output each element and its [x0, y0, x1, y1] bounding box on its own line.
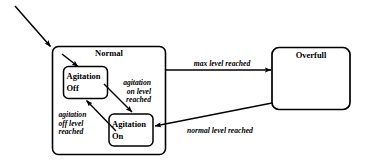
transition-initial-line: [15, 6, 51, 47]
transition-agitation-on-label-line3: reached: [126, 95, 151, 104]
state-agitation-on-label-line1: Agitation: [112, 119, 146, 129]
state-diagram: Normal Agitation Off Agitation On Overfu…: [0, 0, 365, 164]
state-overfull-title: Overfull: [296, 50, 327, 60]
state-agitation-off-label-line2: Off: [67, 83, 79, 93]
transition-max-level-label: max level reached: [194, 59, 251, 68]
transition-normal-level-label: normal level reached: [187, 126, 253, 135]
transition-max-level: max level reached: [166, 59, 272, 70]
state-agitation-off-label-line1: Agitation: [67, 71, 101, 81]
state-agitation-off[interactable]: Agitation Off: [64, 67, 108, 99]
state-normal-title: Normal: [95, 48, 123, 58]
transition-normal-level: normal level reached: [155, 103, 272, 135]
transition-normal-level-line: [155, 103, 272, 126]
transition-initial: [15, 6, 51, 47]
state-overfull[interactable]: Overfull: [272, 48, 350, 110]
diagram-canvas: Normal Agitation Off Agitation On Overfu…: [0, 0, 365, 164]
transition-agitation-off-label-line3: reached: [59, 127, 84, 136]
state-agitation-on-label-line2: On: [112, 131, 124, 141]
